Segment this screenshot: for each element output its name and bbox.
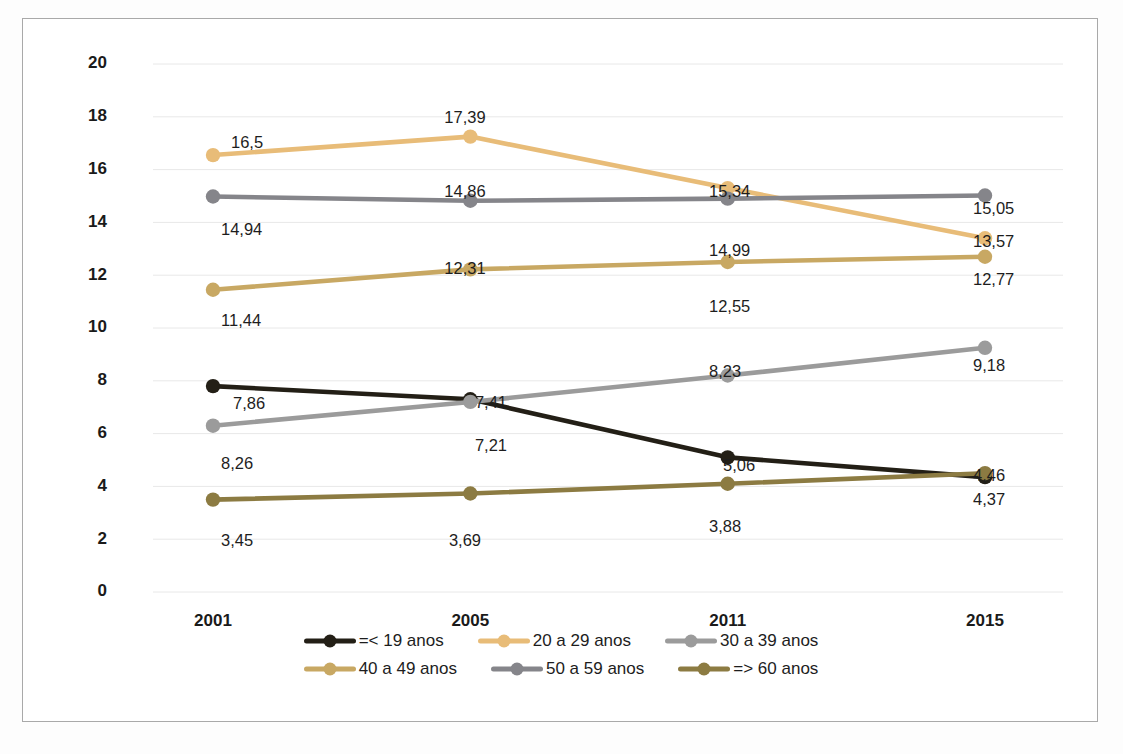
y-axis-tick-label: 14 [88,212,107,231]
series-point-marker [206,379,220,393]
series-point-marker [463,129,477,143]
legend-label: => 60 anos [733,659,818,679]
legend-swatch-icon [491,662,543,676]
legend-item[interactable]: => 60 anos [678,659,818,679]
data-point-label: 8,23 [709,362,741,380]
legend-item[interactable]: =< 19 anos [304,631,444,651]
series-point-marker [720,477,734,491]
legend-item[interactable]: 40 a 49 anos [304,659,457,679]
data-point-label: 13,57 [973,232,1014,250]
y-axis-tick-label: 2 [98,529,107,548]
legend-swatch-icon [304,662,356,676]
data-point-label: 4,37 [973,490,1005,508]
legend-label: 40 a 49 anos [359,659,457,679]
data-point-label: 14,86 [444,182,485,200]
series-point-marker [463,486,477,500]
data-point-label: 3,69 [449,531,481,549]
data-point-label: 12,31 [444,259,485,277]
legend-swatch-icon [304,634,356,648]
y-axis-tick-label: 0 [98,581,107,600]
y-axis-tick-label: 20 [88,53,107,72]
series-point-marker [206,148,220,162]
x-axis-tick-label: 2001 [194,611,232,630]
legend-dot [497,635,510,648]
series-point-marker [206,418,220,432]
legend-row: 40 a 49 anos50 a 59 anos=> 60 anos [304,659,819,679]
legend-swatch-icon [478,634,530,648]
data-point-label: 15,05 [973,199,1014,217]
legend-swatch-icon [678,662,730,676]
legend-swatch-icon [665,634,717,648]
series-line [213,386,985,477]
data-point-label: 5,06 [723,456,755,474]
legend-dot [685,635,698,648]
y-axis-tick-label: 10 [88,317,107,336]
legend-label: 50 a 59 anos [546,659,644,679]
legend-dot [510,663,523,676]
y-axis-tick-label: 18 [88,106,107,125]
legend-dot [698,663,711,676]
legend-row: =< 19 anos20 a 29 anos30 a 39 anos [304,631,819,651]
plot-area: 02468101214161820200120052011201516,517,… [23,19,1099,723]
chart-legend: =< 19 anos20 a 29 anos30 a 39 anos40 a 4… [23,631,1099,679]
data-point-label: 16,5 [231,133,263,151]
legend-dot [323,663,336,676]
data-point-label: 8,26 [221,454,253,472]
y-axis-tick-label: 8 [98,370,107,389]
data-point-label: 4,46 [973,466,1005,484]
series-line [213,348,985,426]
series-point-marker [206,189,220,203]
data-point-label: 17,39 [444,108,485,126]
data-point-label: 12,77 [973,270,1014,288]
series-point-marker [206,283,220,297]
series-line [213,195,985,200]
x-axis-tick-label: 2005 [451,611,489,630]
data-point-label: 7,41 [475,393,507,411]
data-point-label: 3,88 [709,517,741,535]
y-axis-tick-label: 6 [98,423,107,442]
x-axis-tick-label: 2015 [966,611,1004,630]
series-line [213,257,985,290]
legend-label: 30 a 39 anos [720,631,818,651]
series-point-marker [978,250,992,264]
legend-label: =< 19 anos [359,631,444,651]
data-point-label: 15,34 [709,182,750,200]
series-point-marker [206,492,220,506]
y-axis-tick-label: 4 [98,476,108,495]
data-point-label: 14,94 [221,220,262,238]
chart-page: 02468101214161820200120052011201516,517,… [0,0,1123,754]
data-point-label: 11,44 [221,311,261,329]
data-point-label: 3,45 [221,531,253,549]
data-point-label: 14,99 [709,241,750,259]
legend-item[interactable]: 30 a 39 anos [665,631,818,651]
legend-item[interactable]: 50 a 59 anos [491,659,644,679]
y-axis-tick-label: 16 [88,159,107,178]
data-point-label: 7,86 [233,394,265,412]
chart-frame: 02468101214161820200120052011201516,517,… [22,18,1098,722]
x-axis-tick-label: 2011 [709,611,746,630]
data-point-label: 12,55 [709,297,750,315]
legend-label: 20 a 29 anos [533,631,631,651]
data-point-label: 7,21 [475,436,507,454]
legend-item[interactable]: 20 a 29 anos [478,631,631,651]
line-chart: 02468101214161820200120052011201516,517,… [23,19,1099,723]
y-axis-tick-label: 12 [88,265,107,284]
series-line [213,137,985,239]
data-point-label: 9,18 [973,356,1005,374]
series-point-marker [978,341,992,355]
legend-dot [323,635,336,648]
